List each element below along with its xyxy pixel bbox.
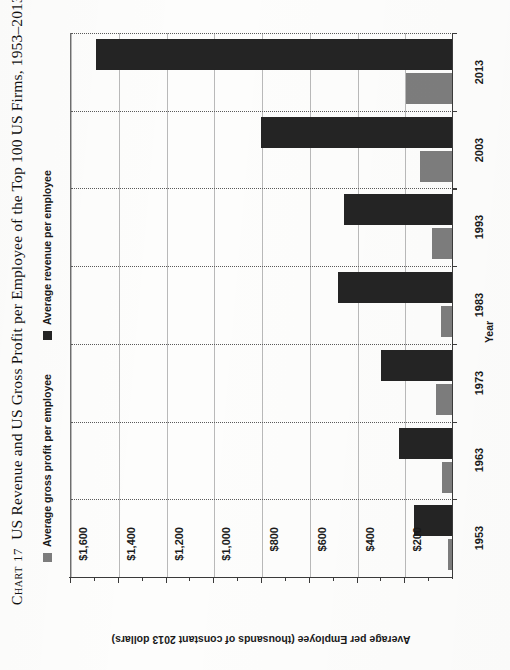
value-gridline bbox=[262, 33, 263, 577]
figure-caption: Chart 17 US Revenue and US Gross Profit … bbox=[8, 0, 34, 615]
plot-inner bbox=[71, 33, 453, 577]
value-tick-minor bbox=[285, 578, 286, 581]
chart-legend: Average gross profit per employee Averag… bbox=[37, 132, 57, 562]
bar-gross-profit-2003 bbox=[420, 151, 453, 182]
category-separator bbox=[71, 266, 453, 267]
legend-item-revenue: Average revenue per employee bbox=[41, 170, 53, 340]
category-separator bbox=[71, 111, 453, 112]
value-tick bbox=[309, 578, 310, 583]
bar-revenue-2003 bbox=[261, 117, 453, 148]
value-tick-minor bbox=[142, 578, 143, 581]
bar-gross-profit-1993 bbox=[432, 228, 453, 259]
legend-label-gross-profit: Average gross profit per employee bbox=[41, 374, 53, 547]
value-tick bbox=[357, 578, 358, 583]
bar-revenue-1993 bbox=[344, 194, 453, 225]
category-tick bbox=[452, 344, 457, 345]
value-tick-label: $600 bbox=[315, 527, 329, 585]
caption-title-text: US Revenue and US Gross Profit per Emplo… bbox=[8, 0, 25, 540]
category-tick bbox=[452, 188, 457, 189]
caption-chart-word: Chart bbox=[10, 566, 25, 605]
legend-swatch-gross-profit bbox=[43, 553, 52, 562]
category-tick bbox=[452, 499, 457, 500]
value-tick-minor bbox=[94, 578, 95, 581]
plot-area bbox=[70, 33, 453, 577]
category-label-1983: 1983 bbox=[472, 288, 486, 322]
category-label-1973: 1973 bbox=[472, 366, 486, 400]
category-tick bbox=[452, 111, 457, 112]
value-tick bbox=[404, 578, 405, 583]
chart-figure: Chart 17 US Revenue and US Gross Profit … bbox=[0, 0, 510, 670]
value-gridline bbox=[119, 33, 120, 577]
category-separator bbox=[71, 33, 453, 34]
value-tick-minor bbox=[189, 578, 190, 581]
value-tick-minor bbox=[428, 578, 429, 581]
value-tick-label: $1,200 bbox=[172, 527, 186, 585]
category-tick bbox=[452, 266, 457, 267]
category-tick bbox=[452, 33, 457, 34]
value-tick-label: $1,600 bbox=[76, 527, 90, 585]
value-tick bbox=[213, 578, 214, 583]
category-label-1953: 1953 bbox=[472, 521, 486, 555]
category-separator bbox=[71, 422, 453, 423]
bar-gross-profit-2013 bbox=[406, 73, 453, 104]
caption-chart-number: 17 bbox=[10, 548, 25, 562]
value-axis-title: Average per Employee (thousands of const… bbox=[75, 632, 447, 648]
value-tick bbox=[261, 578, 262, 583]
category-separator bbox=[71, 344, 453, 345]
category-label-1993: 1993 bbox=[472, 210, 486, 244]
category-label-1963: 1963 bbox=[472, 443, 486, 477]
category-separator bbox=[71, 499, 453, 500]
category-axis-line bbox=[452, 33, 453, 579]
category-label-2013: 2013 bbox=[472, 55, 486, 89]
value-tick bbox=[118, 578, 119, 583]
legend-label-revenue: Average revenue per employee bbox=[41, 170, 53, 325]
bar-revenue-2013 bbox=[96, 39, 453, 70]
category-separator bbox=[71, 188, 453, 189]
bar-revenue-1963 bbox=[399, 428, 453, 459]
value-tick-label: $800 bbox=[267, 527, 281, 585]
category-label-2003: 2003 bbox=[472, 133, 486, 167]
value-gridline bbox=[310, 33, 311, 577]
value-tick-minor bbox=[333, 578, 334, 581]
value-tick-minor bbox=[380, 578, 381, 581]
legend-swatch-revenue bbox=[43, 331, 52, 340]
value-gridline bbox=[405, 33, 406, 577]
value-tick-label: $1,400 bbox=[124, 527, 138, 585]
bar-gross-profit-1973 bbox=[436, 384, 453, 415]
value-tick bbox=[166, 578, 167, 583]
value-tick-label: $200 bbox=[410, 527, 424, 585]
value-tick-label: $1,000 bbox=[219, 527, 233, 585]
value-gridline bbox=[167, 33, 168, 577]
bar-revenue-1983 bbox=[338, 272, 453, 303]
bar-revenue-1973 bbox=[381, 350, 453, 381]
value-tick-label: $400 bbox=[363, 527, 377, 585]
value-tick bbox=[70, 578, 71, 583]
value-tick-minor bbox=[237, 578, 238, 581]
legend-item-gross-profit: Average gross profit per employee bbox=[41, 374, 53, 562]
value-gridline bbox=[214, 33, 215, 577]
category-tick bbox=[452, 422, 457, 423]
value-gridline bbox=[71, 33, 72, 577]
value-gridline bbox=[358, 33, 359, 577]
